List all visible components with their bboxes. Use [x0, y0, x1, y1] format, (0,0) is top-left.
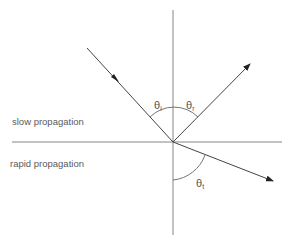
incident-ray — [87, 48, 173, 142]
theta-transmitted-label: θt — [196, 178, 204, 190]
theta-incident-label: θi — [154, 100, 162, 112]
theta-reflected-label: θr — [186, 100, 194, 112]
reflected-ray — [173, 64, 250, 142]
slow-propagation-label: slow propagation — [12, 117, 84, 127]
rapid-propagation-label: rapid propagation — [10, 159, 84, 169]
